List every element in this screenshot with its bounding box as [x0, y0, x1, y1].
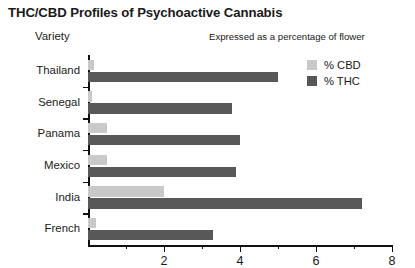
- bar-group: [88, 182, 392, 214]
- y-axis-label: India: [55, 192, 80, 203]
- bar-group: [88, 87, 392, 119]
- y-axis-label: Senegal: [38, 97, 80, 108]
- bar-cbd: [88, 123, 107, 134]
- x-axis-label: 4: [236, 254, 243, 268]
- chart-container: THC/CBD Profiles of Psychoactive Cannabi…: [0, 0, 415, 268]
- bar-cbd: [88, 91, 92, 102]
- y-axis-label: Panama: [38, 128, 80, 139]
- y-axis-label: Mexico: [44, 160, 80, 171]
- x-tick-major: [392, 245, 393, 252]
- bar-cbd: [88, 186, 164, 197]
- y-tick: [83, 213, 89, 214]
- y-tick: [83, 118, 89, 119]
- chart-title: THC/CBD Profiles of Psychoactive Cannabi…: [8, 5, 282, 20]
- y-tick: [83, 182, 89, 183]
- bar-group: [88, 213, 392, 245]
- x-tick-minor: [202, 245, 203, 249]
- y-axis-title: Variety: [35, 30, 70, 42]
- bar-cbd: [88, 60, 94, 71]
- bar-thc: [88, 230, 213, 241]
- bar-thc: [88, 135, 240, 146]
- chart-subtitle: Expressed as a percentage of flower: [209, 31, 365, 42]
- bar-group: [88, 55, 392, 87]
- x-tick-minor: [278, 245, 279, 249]
- x-tick-minor: [354, 245, 355, 249]
- x-axis-label: 2: [160, 254, 167, 268]
- bar-group: [88, 150, 392, 182]
- y-tick: [83, 150, 89, 151]
- y-axis-label: Thailand: [36, 65, 80, 76]
- x-axis-label: 8: [388, 254, 395, 268]
- bar-cbd: [88, 155, 107, 166]
- bar-thc: [88, 198, 362, 209]
- x-tick-minor: [126, 245, 127, 249]
- bar-cbd: [88, 218, 96, 229]
- bar-thc: [88, 167, 236, 178]
- y-tick: [83, 87, 89, 88]
- x-axis-label: 6: [312, 254, 319, 268]
- x-tick-major: [316, 245, 317, 252]
- bar-thc: [88, 72, 278, 83]
- y-axis-label: French: [45, 223, 80, 234]
- plot-area: ThailandSenegalPanamaMexicoIndiaFrench 2…: [88, 55, 392, 245]
- x-tick-major: [164, 245, 165, 252]
- bar-group: [88, 118, 392, 150]
- bar-thc: [88, 103, 232, 114]
- x-tick-major: [240, 245, 241, 252]
